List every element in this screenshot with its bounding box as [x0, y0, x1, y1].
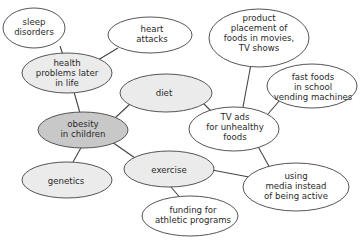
svg-text:in school: in school: [294, 82, 332, 92]
edge-exercise-media: [212, 170, 249, 177]
svg-text:placement of: placement of: [231, 23, 289, 33]
node-using-media: using media instead of being active: [243, 163, 349, 211]
svg-text:using: using: [284, 171, 307, 181]
node-exercise: exercise: [124, 151, 214, 187]
concept-map: sleep disorders heart attacks health pro…: [0, 0, 361, 242]
svg-text:TV shows: TV shows: [238, 43, 280, 53]
node-obesity-in-children: obesity in children: [38, 112, 128, 148]
svg-text:product: product: [242, 13, 276, 23]
node-health-problems: health problems later in life: [22, 53, 112, 93]
node-diet: diet: [120, 74, 212, 112]
svg-text:in life: in life: [55, 78, 79, 88]
edge-health-obesity: [74, 92, 80, 113]
svg-text:fast foods: fast foods: [292, 72, 335, 82]
svg-text:TV ads: TV ads: [219, 112, 250, 122]
edge-heart-health: [98, 48, 118, 60]
svg-text:health: health: [53, 58, 80, 68]
svg-text:diet: diet: [156, 88, 173, 98]
svg-text:media instead: media instead: [265, 181, 326, 191]
svg-text:obesity: obesity: [67, 119, 98, 129]
node-genetics: genetics: [22, 162, 112, 198]
edge-product-tvads: [243, 64, 251, 107]
edge-obesity-exercise: [112, 142, 135, 158]
node-funding-athletic: funding for athletic programs: [142, 196, 238, 236]
svg-text:genetics: genetics: [48, 176, 85, 186]
svg-text:sleep: sleep: [23, 17, 46, 27]
svg-text:for unhealthy: for unhealthy: [206, 122, 264, 132]
node-heart-attacks: heart attacks: [108, 17, 192, 53]
svg-text:problems later: problems later: [36, 68, 99, 78]
svg-text:in children: in children: [60, 129, 105, 139]
svg-text:attacks: attacks: [136, 34, 168, 44]
svg-text:foods in movies,: foods in movies,: [224, 33, 294, 43]
node-sleep-disorders: sleep disorders: [3, 8, 65, 48]
node-fast-foods: fast foods in school vending machines: [267, 64, 357, 108]
svg-text:foods: foods: [223, 132, 247, 142]
svg-text:vending machines: vending machines: [274, 92, 353, 102]
edge-obesity-diet: [115, 104, 130, 118]
svg-text:funding for: funding for: [169, 205, 217, 215]
node-tv-ads: TV ads for unhealthy foods: [189, 107, 279, 151]
node-product-placement: product placement of foods in movies, TV…: [209, 9, 309, 67]
edge-fastfoods-tvads: [268, 100, 280, 114]
svg-text:disorders: disorders: [14, 27, 54, 37]
svg-text:athletic programs: athletic programs: [155, 215, 232, 225]
svg-text:of being active: of being active: [264, 191, 328, 201]
svg-text:heart: heart: [141, 24, 165, 34]
svg-text:exercise: exercise: [151, 165, 186, 175]
